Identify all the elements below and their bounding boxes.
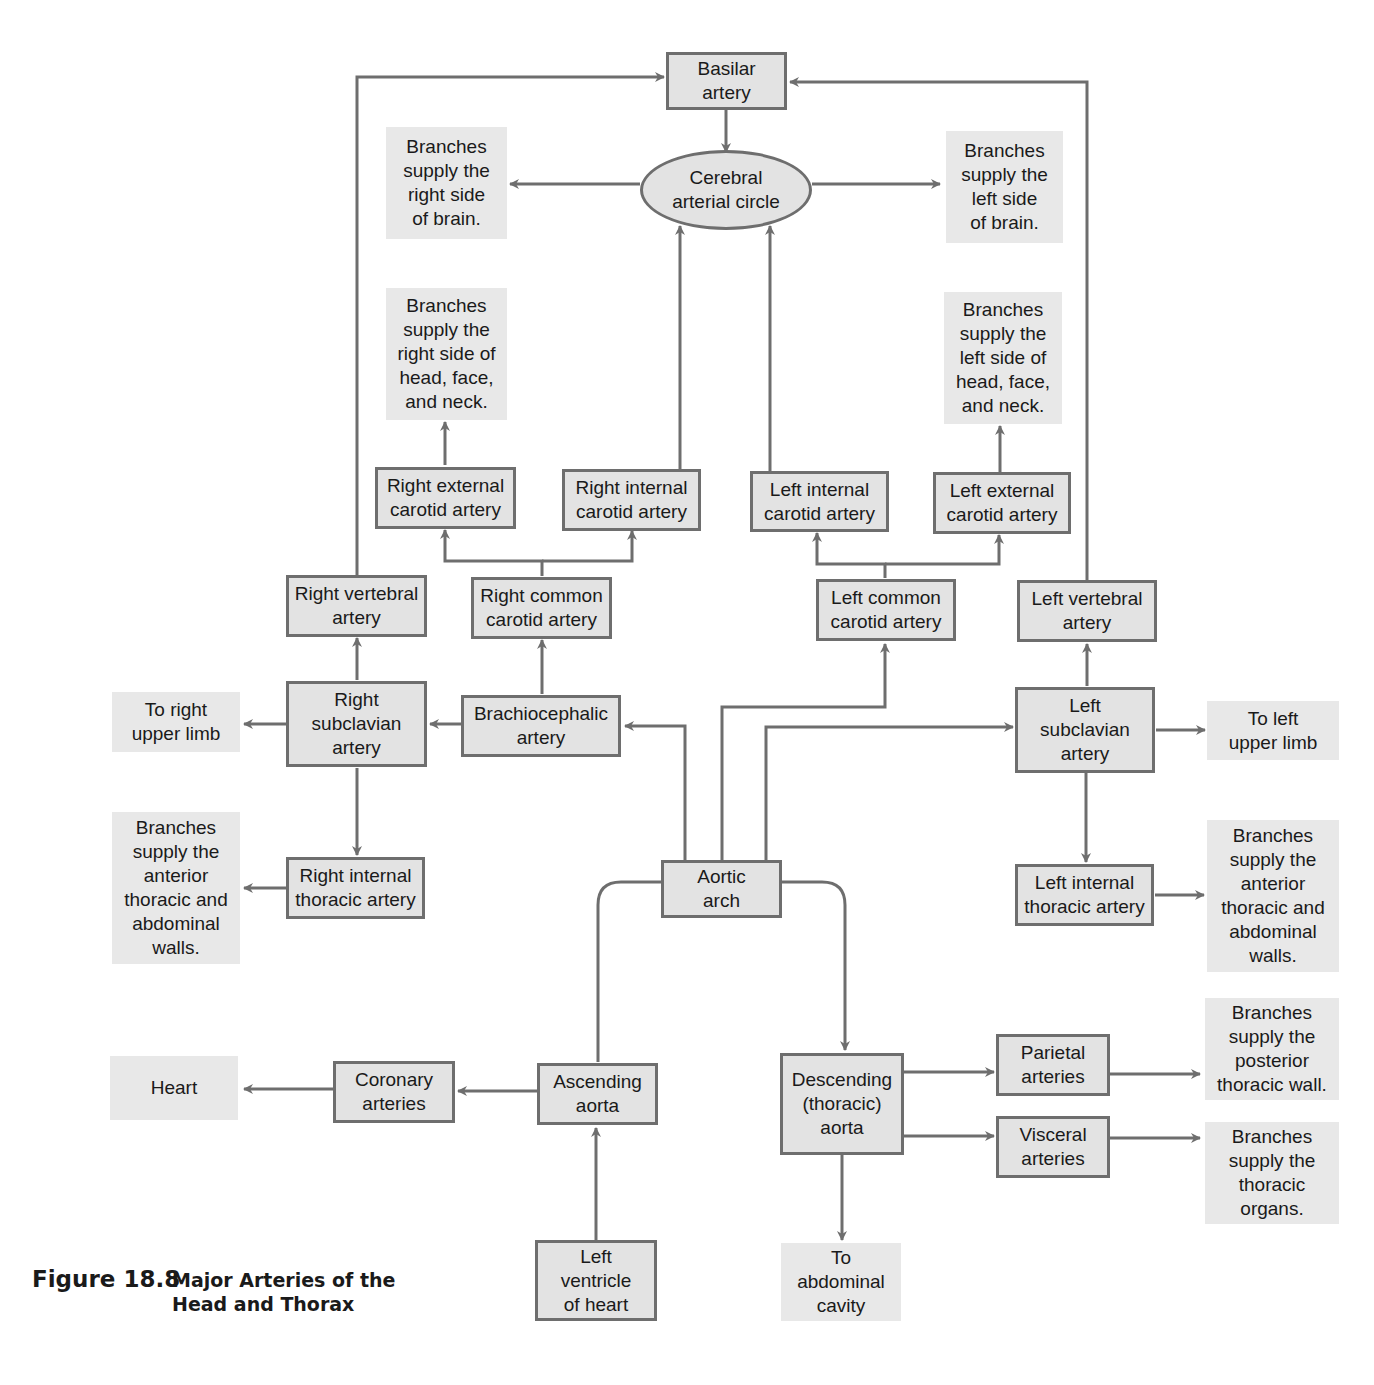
head-face-neck-left-note: Branches supply the left side of head, f… xyxy=(944,292,1062,424)
brain-right-note: Branches supply the right side of brain. xyxy=(386,127,507,239)
figure-number: Figure 18.8 xyxy=(32,1266,180,1292)
abdominal-cavity-note: To abdominal cavity xyxy=(781,1243,901,1321)
left-internal-thoracic-box: Left internal thoracic artery xyxy=(1015,864,1154,926)
figure-title: Major Arteries of the Head and Thorax xyxy=(172,1268,492,1316)
left-anterior-walls-note: Branches supply the anterior thoracic an… xyxy=(1207,820,1339,972)
visceral-arteries-box: Visceral arteries xyxy=(996,1116,1110,1178)
right-external-carotid-box: Right external carotid artery xyxy=(375,467,516,529)
left-internal-carotid-box: Left internal carotid artery xyxy=(750,471,889,532)
aortic-arch-box: Aortic arch xyxy=(661,860,782,918)
right-internal-carotid-box: Right internal carotid artery xyxy=(562,469,701,531)
coronary-arteries-box: Coronary arteries xyxy=(333,1061,455,1123)
to-left-upper-limb-note: To left upper limb xyxy=(1207,701,1339,760)
cerebral-arterial-circle-oval: Cerebral arterial circle xyxy=(640,150,812,230)
left-external-carotid-box: Left external carotid artery xyxy=(933,472,1071,534)
posterior-wall-note: Branches supply the posterior thoracic w… xyxy=(1205,998,1339,1100)
ascending-aorta-box: Ascending aorta xyxy=(537,1063,658,1125)
right-internal-thoracic-box: Right internal thoracic artery xyxy=(286,857,425,919)
left-ventricle-box: Left ventricle of heart xyxy=(535,1240,657,1321)
descending-aorta-box: Descending (thoracic) aorta xyxy=(780,1053,904,1155)
right-subclavian-box: Right subclavian artery xyxy=(286,681,427,767)
figure-caption: Figure 18.8 Major Arteries of the Head a… xyxy=(32,1266,180,1292)
head-face-neck-right-note: Branches supply the right side of head, … xyxy=(386,288,507,420)
brachiocephalic-box: Brachiocephalic artery xyxy=(461,695,621,757)
left-common-carotid-box: Left common carotid artery xyxy=(816,579,956,641)
to-right-upper-limb-note: To right upper limb xyxy=(112,692,240,752)
left-subclavian-box: Left subclavian artery xyxy=(1015,687,1155,773)
basilar-artery-box: Basilar artery xyxy=(666,52,787,110)
left-vertebral-box: Left vertebral artery xyxy=(1017,580,1157,642)
right-common-carotid-box: Right common carotid artery xyxy=(471,577,612,639)
brain-left-note: Branches supply the left side of brain. xyxy=(946,131,1063,243)
heart-note: Heart xyxy=(110,1056,238,1120)
thoracic-organs-note: Branches supply the thoracic organs. xyxy=(1205,1122,1339,1224)
right-vertebral-box: Right vertebral artery xyxy=(286,575,427,637)
right-anterior-walls-note: Branches supply the anterior thoracic an… xyxy=(112,812,240,964)
parietal-arteries-box: Parietal arteries xyxy=(996,1034,1110,1096)
